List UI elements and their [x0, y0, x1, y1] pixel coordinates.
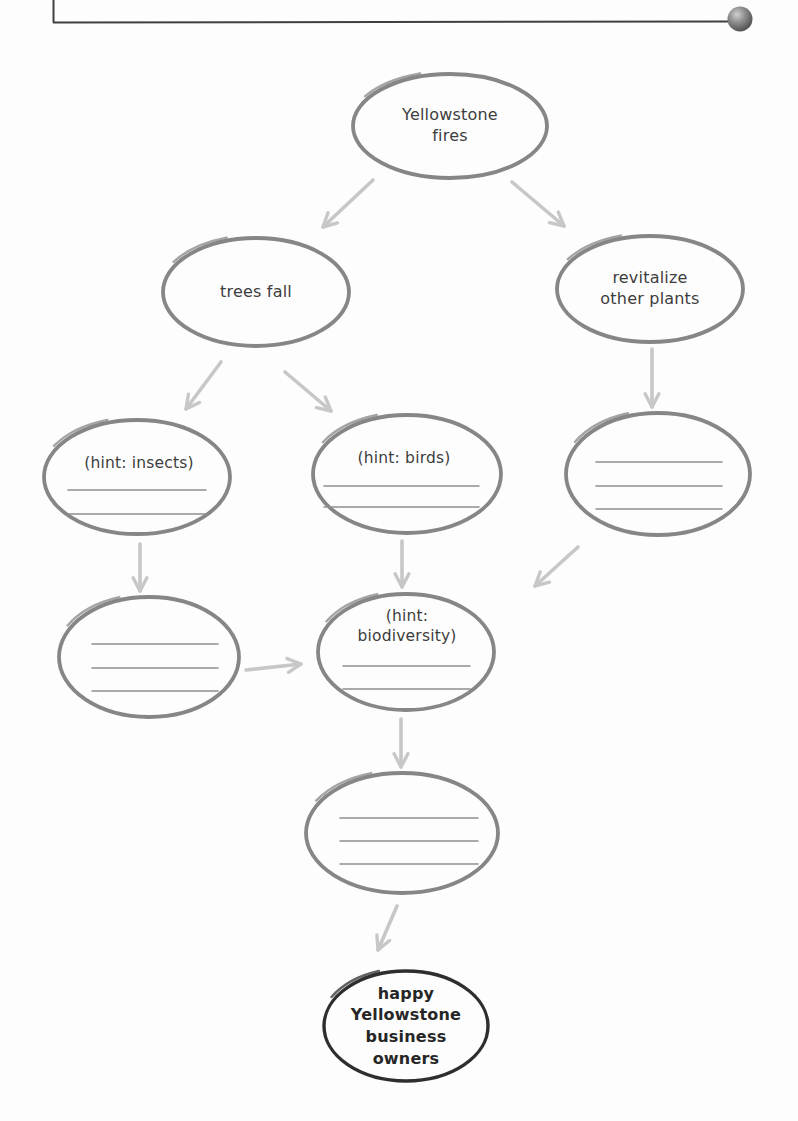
node-trees-fall [159, 235, 353, 349]
answer-lines-hint-birds[interactable] [324, 486, 479, 507]
answer-lines-hint-insects[interactable] [68, 490, 206, 514]
node-hint-biodiversity [314, 591, 498, 713]
frame-horizontal-line [53, 22, 728, 23]
node-blank-middle [302, 770, 502, 896]
node-yellowstone-fires [349, 71, 551, 181]
arrow-blank-right-to-hint-biodiversity [535, 547, 578, 586]
node-revitalize-other-plants [553, 233, 747, 345]
answer-lines-blank-left[interactable] [92, 644, 218, 691]
sphere-bullet-icon [728, 7, 753, 32]
answer-lines-hint-biodiversity[interactable] [343, 666, 470, 689]
concept-map-canvas [0, 0, 798, 1121]
node-blank-left [55, 594, 243, 720]
node-hint-insects [40, 417, 234, 537]
answer-lines-blank-right[interactable] [596, 462, 722, 509]
edges [133, 180, 659, 950]
top-frame [53, 0, 753, 32]
arrow-yellowstone-fires-to-trees-fall [323, 180, 373, 227]
worksheet-page: Yellowstone fires trees fall revitalize … [0, 0, 798, 1121]
node-hint-birds [309, 412, 505, 536]
node-blank-right [562, 410, 754, 538]
answer-lines-blank-middle[interactable] [340, 818, 478, 864]
arrow-trees-fall-to-hint-birds [285, 372, 331, 411]
node-happy-owners [320, 968, 492, 1084]
arrow-yellowstone-fires-to-revitalize-other-plants [512, 182, 564, 226]
arrow-trees-fall-to-hint-insects [186, 362, 221, 409]
